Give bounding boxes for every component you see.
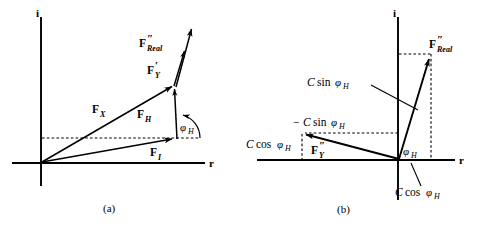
label-f-x-a: F X (92, 103, 106, 119)
svg-text:φ: φ (180, 121, 186, 133)
vector-f-real-double-prime-b (399, 59, 429, 159)
svg-text:cos: cos (256, 138, 272, 150)
svg-text:Real: Real (146, 44, 163, 53)
axis-label-i-a: i (36, 7, 39, 19)
label-f-y-double-prime-b: F ″ Y (311, 139, 325, 160)
svg-text:F: F (137, 108, 144, 120)
svg-text:φ: φ (335, 76, 341, 88)
svg-text:H: H (342, 82, 350, 91)
svg-text:cos: cos (405, 186, 421, 198)
svg-text:H: H (144, 115, 152, 124)
svg-text:H: H (338, 122, 346, 131)
svg-text:F: F (311, 144, 318, 156)
svg-text:″: ″ (319, 139, 325, 151)
svg-text:φ: φ (403, 145, 409, 157)
svg-text:F: F (147, 64, 154, 76)
svg-text:″: ″ (147, 32, 153, 44)
label-f-real-double-prime-a: F ″ Real (139, 32, 163, 53)
svg-text:F: F (429, 38, 436, 50)
label-f-h-a: F H (137, 108, 152, 124)
svg-text:H: H (187, 127, 195, 136)
svg-text:Real: Real (436, 45, 453, 54)
panel-b-svg: i r F ″ Real C sin φ H − C sin φ H (243, 0, 486, 229)
svg-text:Y: Y (155, 71, 161, 80)
svg-text:H: H (433, 192, 441, 201)
vector-diagram-figure: i r F ″ Real F ′ Y F X F H (0, 0, 486, 229)
svg-text:φ: φ (331, 116, 337, 128)
svg-text:C: C (395, 186, 403, 198)
svg-text:sin: sin (313, 116, 327, 128)
label-neg-c-sin-phi-h-b: − C sin φ H (293, 116, 346, 131)
svg-text:H: H (284, 144, 292, 153)
svg-text:F: F (92, 103, 99, 115)
vector-f-real-double-prime (176, 29, 192, 87)
leader-c-sin-b (371, 85, 418, 110)
label-phi-h-a: φ H (180, 121, 195, 136)
label-c-cos-phi-h-left-b: C cos φ H (246, 138, 292, 153)
panel-a-svg: i r F ″ Real F ′ Y F X F H (0, 0, 243, 229)
svg-text:C: C (246, 138, 254, 150)
caption-a: (a) (103, 202, 116, 215)
svg-text:F: F (139, 37, 146, 49)
svg-text:H: H (410, 151, 418, 160)
svg-text:C: C (307, 76, 315, 88)
axis-label-r-b: r (459, 154, 464, 166)
axis-label-i-b: i (393, 7, 396, 19)
label-c-sin-phi-h-b: C sin φ H (307, 76, 350, 91)
leader-c-cos-bottom-b (411, 163, 421, 186)
svg-text:X: X (99, 110, 106, 119)
svg-text:C: C (303, 116, 311, 128)
vector-f-h (175, 89, 178, 139)
svg-text:Y: Y (319, 151, 325, 160)
label-f-y-prime-a: F ′ Y (147, 59, 161, 80)
label-c-cos-phi-h-bottom-b: C cos φ H (395, 186, 441, 201)
svg-text:φ: φ (277, 138, 283, 150)
panel-b: i r F ″ Real C sin φ H − C sin φ H (243, 0, 486, 229)
label-phi-h-b: φ H (403, 145, 418, 160)
caption-b: (b) (337, 203, 350, 216)
axis-label-r-a: r (209, 157, 214, 169)
svg-text:″: ″ (437, 33, 443, 45)
svg-text:I: I (157, 153, 162, 162)
svg-text:sin: sin (317, 76, 331, 88)
vector-f-y-prime (174, 51, 185, 86)
label-f-i-a: F I (150, 146, 162, 162)
svg-text:′: ′ (155, 59, 158, 71)
svg-text:−: − (293, 116, 300, 128)
svg-text:φ: φ (426, 186, 432, 198)
label-f-real-double-prime-b: F ″ Real (429, 33, 453, 54)
svg-text:F: F (150, 146, 157, 158)
panel-a: i r F ″ Real F ′ Y F X F H (0, 0, 243, 229)
